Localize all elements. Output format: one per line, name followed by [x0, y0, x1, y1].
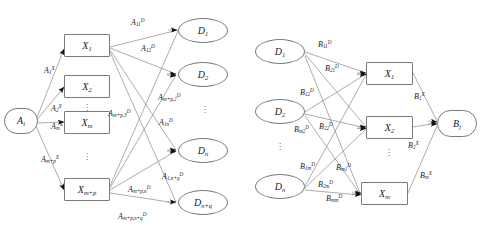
edge-label-A1X: A1X [44, 66, 55, 75]
node-input-D1-right[interactable]: D1 [255, 39, 305, 64]
node-label-X1-right: X1 [385, 68, 394, 80]
node-source-A[interactable]: Ai [4, 108, 38, 134]
edge-label-Bm1D: Bm1D [336, 163, 351, 172]
edge-label-A1nqD: A1,n+qD [162, 172, 183, 181]
node-input-D2-right[interactable]: D2 [255, 99, 305, 124]
node-label-Dn-left: Dn [198, 145, 208, 157]
node-hidden-X2-right[interactable]: X2 [366, 116, 413, 139]
ellipsis-between-X2-Xm: ... [80, 101, 94, 110]
node-label-Dn-right: Dn [275, 181, 285, 193]
edge-label-AmpnD: Am+p,nD [128, 185, 150, 194]
edge-label-A12D: A12D [141, 44, 155, 53]
edge-label-AmX: AmX [51, 122, 63, 131]
node-label-X1-left: X1 [82, 40, 91, 52]
edge-label-A2X: A2X [51, 104, 62, 113]
node-output-D2-left[interactable]: D2 [178, 62, 228, 87]
node-label-Dnq-left: Dn+q [194, 197, 212, 209]
node-output-D1-left[interactable]: D1 [178, 18, 228, 43]
edge-label-Amp2D: Am+p,2D [158, 93, 180, 102]
edge-label-AmpX: Am+pX [41, 155, 59, 164]
node-output-Dn-left[interactable]: Dn [178, 138, 228, 163]
edge-label-BmX: BmX [420, 171, 432, 180]
node-hidden-Xmp-left[interactable]: Xm+p [64, 178, 110, 201]
node-label-Xm-left: Xm [82, 117, 93, 129]
figure-canvas: Ai X1 X2 Xm Xm+p ... ... D1 D2 Dn Dn+q .… [0, 0, 483, 240]
edge-label-B2mD: B2mD [318, 180, 333, 189]
ellipsis-between-Xm-Xmp: ... [80, 150, 94, 159]
node-label-D2-right: D2 [275, 106, 285, 118]
edge-label-A1nD: A1nD [159, 118, 173, 127]
ellipsis-between-D2-Dn: ... [198, 103, 212, 112]
node-label-A-i: Ai [17, 115, 25, 127]
node-hidden-Xm-left[interactable]: Xm [64, 111, 110, 134]
node-label-Xm-right: Xm [379, 188, 390, 200]
edge-label-Ampnq2D: Am+p,n+qD [118, 212, 146, 221]
edge-label-B11D: B11D [318, 40, 331, 49]
edge-label-B21D: B21D [325, 64, 339, 73]
edge-label-A11D: A11D [131, 18, 144, 27]
node-hidden-X2-left[interactable]: X2 [64, 75, 110, 98]
node-output-Dnq-left[interactable]: Dn+q [178, 190, 228, 215]
ellipsis-between-D2-Dn-right: ... [273, 140, 287, 149]
edge-label-B12D: B12D [300, 88, 314, 97]
node-label-X2-right: X2 [385, 122, 394, 134]
edge-label-BmmD: BmmD [326, 194, 342, 203]
node-label-D1-left: D1 [198, 25, 208, 37]
edge-label-B22D: B22D [319, 122, 333, 131]
node-input-Dn-right[interactable]: Dn [255, 174, 305, 199]
node-hidden-Xm-right[interactable]: Xm [361, 182, 408, 205]
edge-label-Amp3D: Am+p,3D [108, 109, 130, 118]
edge-label-Bm2D: Bm2D [294, 125, 309, 134]
node-label-D1-right: D1 [275, 46, 285, 58]
edge-label-B2X: B2X [408, 141, 419, 150]
edge-label-B1mD: B1mD [300, 162, 315, 171]
node-output-B[interactable]: Bj [437, 110, 477, 137]
node-hidden-X1-left[interactable]: X1 [64, 34, 110, 57]
edge-label-B1X: B1X [414, 92, 425, 101]
node-label-D2-left: D2 [198, 69, 208, 81]
node-label-Xmp-left: Xm+p [78, 184, 96, 196]
node-label-B-j: Bj [453, 118, 461, 130]
ellipsis-between-X2-Xm-right: ... [382, 146, 396, 155]
node-label-X2-left: X2 [82, 81, 91, 93]
node-hidden-X1-right[interactable]: X1 [366, 62, 413, 85]
